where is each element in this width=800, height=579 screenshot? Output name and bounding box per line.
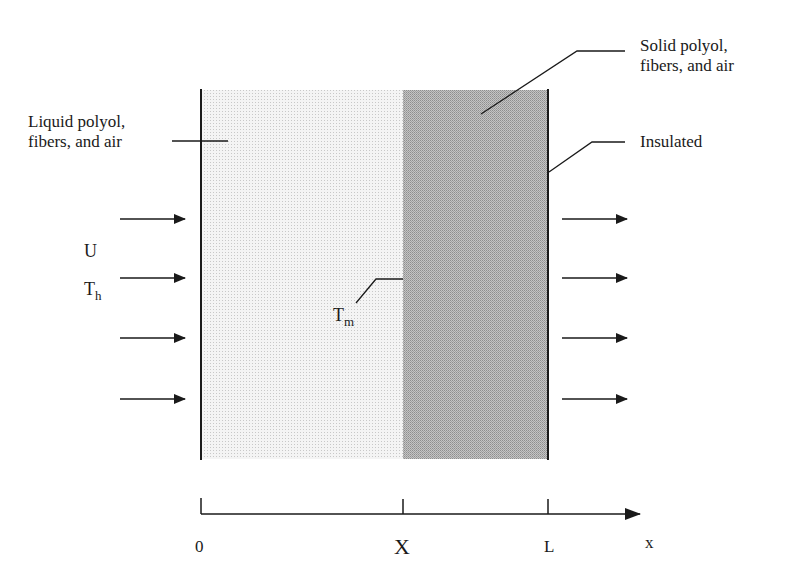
melt-temperature-label: Tm [333, 305, 354, 327]
diagram-canvas [0, 0, 800, 579]
temperature-subscript: h [95, 288, 102, 303]
inflow-arrows [120, 219, 185, 399]
temperature-symbol: T [84, 279, 95, 299]
axis-tick-label-X: X [394, 535, 410, 559]
solid-region [403, 90, 548, 459]
liquid-region [201, 90, 403, 459]
solid-label-line1: Solid polyol, [640, 36, 734, 56]
insulated-label: Insulated [640, 132, 702, 152]
x-axis [201, 498, 640, 514]
liquid-region-label: Liquid polyol, fibers, and air [28, 112, 125, 152]
solid-label-line2: fibers, and air [640, 56, 734, 76]
liquid-label-line2: fibers, and air [28, 132, 125, 152]
axis-tick-label-L: L [544, 537, 554, 557]
liquid-label-line1: Liquid polyol, [28, 112, 125, 132]
hot-temperature-label: Th [84, 279, 102, 301]
insulated-leader [549, 142, 625, 172]
solid-region-label: Solid polyol, fibers, and air [640, 36, 734, 76]
temperature-subscript: m [344, 314, 354, 329]
axis-variable-label: x [645, 533, 654, 553]
axis-tick-label-0: 0 [195, 537, 204, 557]
temperature-symbol: T [333, 305, 344, 325]
velocity-label: U [84, 241, 97, 261]
outflow-arrows [562, 219, 627, 399]
